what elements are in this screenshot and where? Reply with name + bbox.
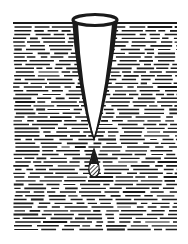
funnel-illustration — [0, 0, 188, 244]
funnel — [73, 15, 117, 140]
funnel-rim — [73, 15, 117, 26]
